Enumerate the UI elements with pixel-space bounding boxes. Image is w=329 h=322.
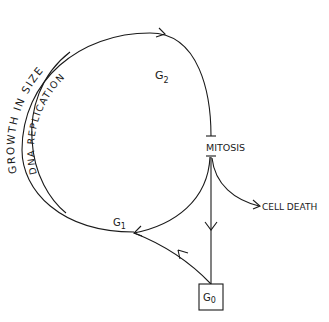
mitosis-to-g1-arc [134,157,210,233]
g2-label: G2 [155,69,169,85]
arc-arrowhead-icon [156,28,165,37]
g0-to-g1-arrow-icon [178,250,188,259]
cell-death-label: CELL DEATH [262,202,317,212]
cell-death-curve [212,158,259,206]
g1-label: G1 [113,217,126,231]
g0-to-g1-curve [134,233,211,284]
cell-cycle-diagram: GROWTH IN SIZE DNA REPLICATION G2 MITOSI… [0,0,329,322]
cycle-arc [22,33,211,232]
mitosis-label: MITOSIS [206,142,245,153]
